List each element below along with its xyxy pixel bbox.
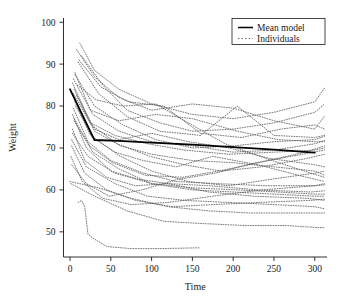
x-axis-tick-label: 150 [185, 264, 200, 274]
y-axis-tick-label: 70 [46, 143, 56, 153]
chart-figure: 5060708090100050100150200250300TimeWeigh… [0, 0, 341, 303]
y-axis-title: Weight [7, 123, 18, 152]
line-chart-svg: 5060708090100050100150200250300TimeWeigh… [0, 0, 341, 303]
x-axis-tick-label: 50 [106, 264, 116, 274]
chart-legend: Mean modelIndividuals [232, 19, 325, 45]
legend-label: Mean model [257, 23, 305, 33]
x-axis-tick-label: 200 [226, 264, 241, 274]
y-axis-tick-label: 100 [41, 18, 56, 28]
y-axis-tick-label: 80 [46, 101, 56, 111]
y-axis-tick-label: 50 [46, 227, 56, 237]
x-axis-tick-label: 300 [308, 264, 323, 274]
x-axis-tick-label: 100 [144, 264, 159, 274]
y-axis-tick-label: 90 [46, 60, 56, 70]
x-axis-title: Time [185, 281, 206, 292]
y-axis-tick-label: 60 [46, 185, 56, 195]
x-axis-tick-label: 250 [267, 264, 282, 274]
legend-label: Individuals [257, 34, 300, 44]
x-axis-tick-label: 0 [68, 264, 73, 274]
